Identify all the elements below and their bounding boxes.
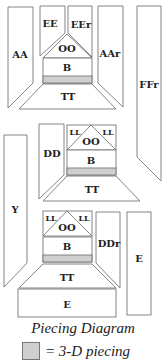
- piecing-diagram: AA EE EEr OO B AAr TT FFr DD LL LL OO B …: [0, 0, 166, 362]
- label-EEr: EEr: [71, 19, 92, 30]
- label-OO: OO: [58, 222, 76, 233]
- shaded-strip: [43, 76, 92, 83]
- label-OO: OO: [82, 136, 100, 147]
- label-AA: AA: [11, 49, 28, 60]
- diagram-caption: Piecing Diagram: [0, 320, 166, 337]
- piece-FFr: [137, 6, 161, 181]
- label-TT: TT: [85, 184, 100, 195]
- label-EE: EE: [42, 18, 58, 29]
- label-E: E: [135, 253, 143, 264]
- label-LL: LL: [45, 213, 57, 223]
- label-E: E: [63, 299, 71, 310]
- shaded-strip: [67, 168, 116, 175]
- label-DDr: DDr: [98, 238, 121, 249]
- label-B: B: [63, 241, 71, 252]
- label-Y: Y: [10, 204, 19, 215]
- label-B: B: [63, 62, 71, 73]
- label-B: B: [87, 155, 95, 166]
- label-LL: LL: [78, 213, 90, 223]
- label-LL: LL: [69, 127, 81, 137]
- legend-swatch: [22, 342, 40, 360]
- label-TT: TT: [60, 272, 75, 283]
- label-FFr: FFr: [139, 79, 159, 90]
- shaded-strip: [43, 255, 92, 262]
- legend-label: = 3-D piecing: [45, 343, 130, 360]
- label-AAr: AAr: [99, 48, 122, 59]
- legend: = 3-D piecing: [22, 341, 130, 361]
- label-LL: LL: [102, 127, 114, 137]
- label-DD: DD: [43, 148, 61, 159]
- label-TT: TT: [61, 91, 76, 102]
- label-OO: OO: [58, 43, 76, 54]
